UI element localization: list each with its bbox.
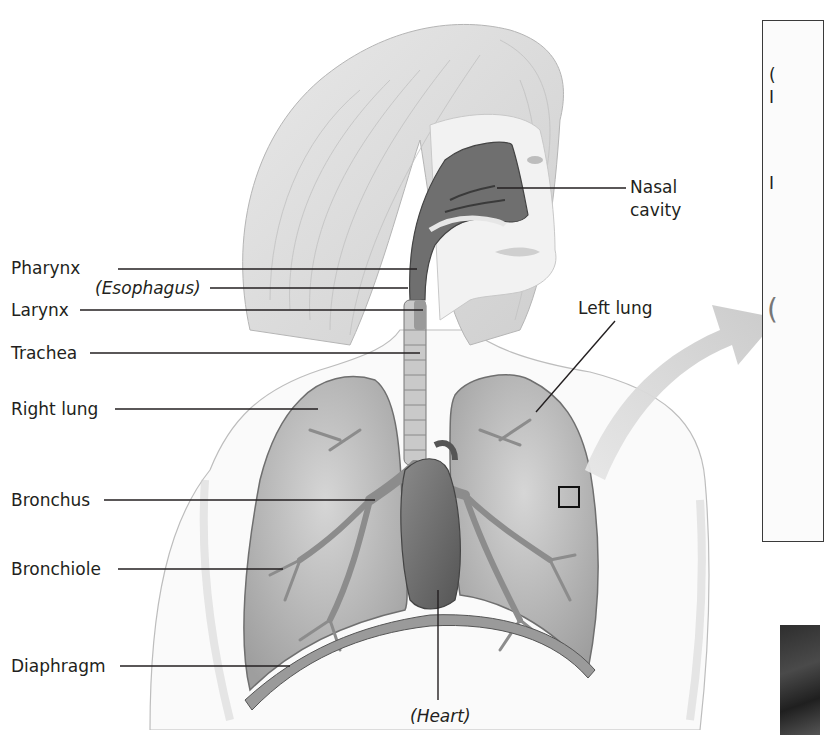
label-heart: (Heart) bbox=[410, 706, 471, 726]
label-trachea: Trachea bbox=[11, 343, 77, 363]
micrograph-inset-cropped bbox=[780, 625, 820, 735]
inset-text-fragment: ( bbox=[767, 293, 778, 326]
label-nasal-cavity-line1: Nasal bbox=[630, 177, 677, 197]
inset-panel-cropped: ( I I ( bbox=[762, 20, 824, 542]
trachea-tube bbox=[404, 300, 426, 465]
inset-text-fragment: I bbox=[769, 173, 774, 193]
label-left-lung: Left lung bbox=[578, 298, 652, 318]
label-bronchus: Bronchus bbox=[11, 490, 90, 510]
label-right-lung: Right lung bbox=[11, 399, 98, 419]
label-larynx: Larynx bbox=[11, 300, 69, 320]
label-pharynx: Pharynx bbox=[11, 258, 80, 278]
label-nasal-cavity-line2: cavity bbox=[630, 200, 681, 220]
inset-text-fragment: I bbox=[769, 87, 774, 107]
inset-text-fragment: ( bbox=[769, 65, 776, 85]
label-esophagus: (Esophagus) bbox=[95, 278, 201, 298]
label-diaphragm: Diaphragm bbox=[11, 656, 106, 676]
label-bronchiole: Bronchiole bbox=[11, 559, 101, 579]
